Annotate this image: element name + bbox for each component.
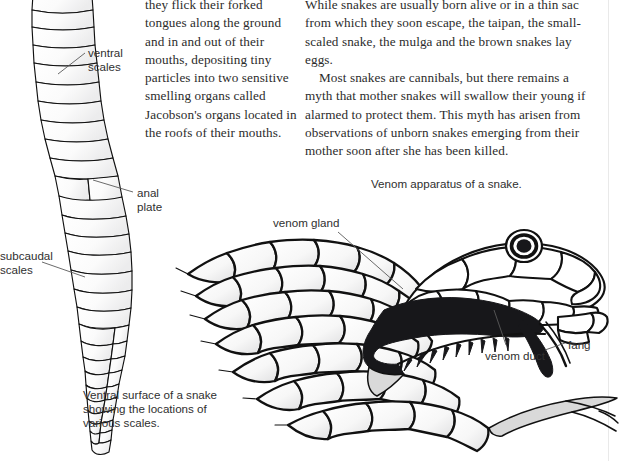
label-ventral-scales: ventral scales bbox=[88, 46, 123, 73]
tail-mosaic-scales bbox=[77, 307, 131, 454]
page-canvas: they flick their forked tongues along th… bbox=[0, 0, 624, 461]
body-column-left: they flick their forked tongues along th… bbox=[145, 0, 297, 142]
label-fang: fang bbox=[568, 338, 591, 352]
right-paragraph-1: While snakes are usually born alive or i… bbox=[305, 0, 595, 69]
caption-ventral-surface: Ventral surface of a snake showing the l… bbox=[83, 388, 217, 431]
label-venom-duct: venom duct bbox=[485, 349, 545, 363]
right-paragraph-2: Most snakes are cannibals, but there rem… bbox=[305, 69, 595, 160]
label-subcaudal-scales: subcaudal scales bbox=[0, 249, 53, 276]
forked-tongue bbox=[489, 397, 618, 436]
left-paragraph-1: they flick their forked tongues along th… bbox=[145, 0, 297, 142]
figure-venom-apparatus bbox=[176, 230, 618, 451]
label-venom-gland: venom gland bbox=[273, 216, 339, 230]
eye bbox=[506, 230, 542, 262]
label-anal-plate: anal plate bbox=[137, 186, 162, 213]
body-column-right: While snakes are usually born alive or i… bbox=[305, 0, 595, 161]
caption-venom-apparatus: Venom apparatus of a snake. bbox=[371, 177, 522, 191]
